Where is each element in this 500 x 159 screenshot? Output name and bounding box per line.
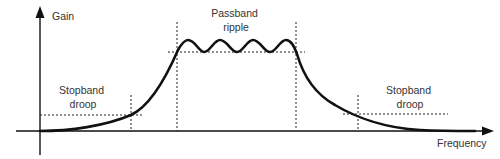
y-axis-label: Gain [52,10,74,22]
left-stopband-droop-label: Stopband droop [59,84,107,110]
right-stopband-droop-label: Stopband droop [386,84,434,110]
filter-response-diagram: Gain Frequency Passband ripple Stopband … [0,0,500,159]
y-axis-arrow-icon [36,6,45,18]
x-axis-arrow-icon [482,127,494,136]
x-axis-label: Frequency [437,137,487,149]
passband-ripple-label: Passband ripple [211,7,261,33]
